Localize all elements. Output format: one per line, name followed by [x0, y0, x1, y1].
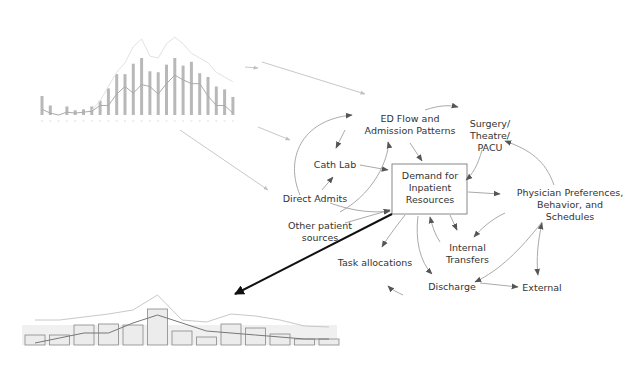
- task-allocations-line-1: Task allocations: [330, 257, 420, 269]
- diagram-canvas: [0, 0, 637, 368]
- internal-line-1: Internal: [440, 242, 495, 254]
- physician-line-2: Behavior, and: [503, 199, 637, 211]
- cath-lab-line-1: Cath Lab: [310, 159, 360, 171]
- node-cath-lab: Cath Lab: [310, 159, 360, 171]
- node-other-sources: Other patient sources: [285, 220, 355, 244]
- ed-flow-line-2: Admission Patterns: [355, 125, 465, 137]
- node-discharge: Discharge: [424, 281, 480, 293]
- node-physician: Physician Preferences, Behavior, and Sch…: [503, 187, 637, 223]
- top-chart: [41, 37, 235, 121]
- node-surgery: Surgery/ Theatre/ PACU: [455, 118, 525, 154]
- surgery-line-2: Theatre/: [455, 130, 525, 142]
- center-line-1: Demand for: [392, 170, 468, 182]
- other-sources-line-2: sources: [285, 232, 355, 244]
- external-line-1: External: [517, 282, 567, 294]
- node-external: External: [517, 282, 567, 294]
- other-sources-line-1: Other patient: [285, 220, 355, 232]
- center-node-label: Demand for Inpatient Resources: [392, 170, 468, 206]
- direct-admits-line-1: Direct Admits: [280, 193, 350, 205]
- surgery-line-3: PACU: [455, 142, 525, 154]
- physician-line-1: Physician Preferences,: [503, 187, 637, 199]
- bottom-chart: [22, 295, 339, 345]
- physician-line-3: Schedules: [503, 211, 637, 223]
- node-task-allocations: Task allocations: [330, 257, 420, 269]
- discharge-line-1: Discharge: [424, 281, 480, 293]
- surgery-line-1: Surgery/: [455, 118, 525, 130]
- node-ed-flow: ED Flow and Admission Patterns: [355, 113, 465, 137]
- node-direct-admits: Direct Admits: [280, 193, 350, 205]
- ed-flow-line-1: ED Flow and: [355, 113, 465, 125]
- node-internal-transfers: Internal Transfers: [440, 242, 495, 266]
- center-line-3: Resources: [392, 194, 468, 206]
- center-line-2: Inpatient: [392, 182, 468, 194]
- internal-line-2: Transfers: [440, 254, 495, 266]
